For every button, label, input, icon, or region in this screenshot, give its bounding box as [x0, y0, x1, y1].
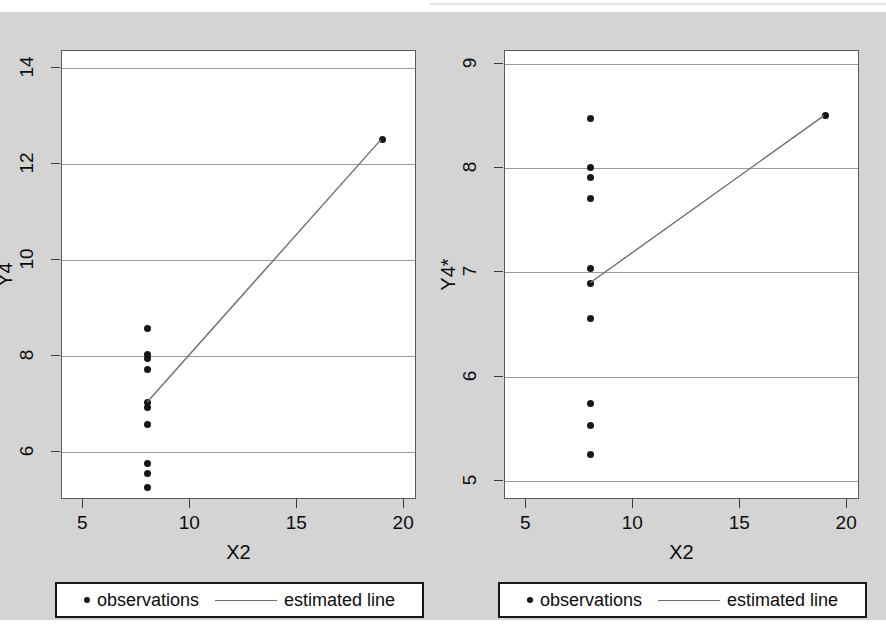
gridline-y-6: [505, 377, 858, 378]
x-tick-mark: [632, 499, 633, 508]
x-axis-title-left: X2: [226, 541, 250, 564]
x-tick-label-15: 15: [286, 512, 307, 534]
x-tick-mark: [189, 499, 190, 508]
data-point[interactable]: [144, 470, 151, 477]
horizontal-line-icon: [658, 600, 720, 601]
y-tick-label-12: 12: [16, 143, 38, 183]
y-tick-mark: [51, 259, 60, 260]
x-tick-label-10: 10: [179, 512, 200, 534]
plot-area-right[interactable]: [504, 50, 859, 499]
x-tick-label-5: 5: [77, 512, 88, 534]
y-tick-label-8: 8: [16, 335, 38, 375]
plot-area-left[interactable]: [61, 50, 416, 499]
data-point[interactable]: [587, 265, 594, 272]
y-tick-mark: [51, 451, 60, 452]
data-point[interactable]: [822, 112, 829, 119]
data-point[interactable]: [144, 325, 151, 332]
gridline-y-14: [62, 68, 415, 69]
y-tick-label-10: 10: [16, 239, 38, 279]
x-tick-mark: [525, 499, 526, 508]
data-point[interactable]: [587, 115, 594, 122]
estimated-line: [62, 51, 415, 498]
data-point[interactable]: [379, 136, 386, 143]
data-point[interactable]: [144, 421, 151, 428]
y-tick-label-6: 6: [459, 356, 481, 396]
page-top-margin: [0, 0, 886, 12]
panel-left: 681012145101520 Y4 X2 observations estim…: [0, 12, 443, 620]
panel-right: 567895101520 Y4* X2 observations estimat…: [443, 12, 886, 620]
y-tick-mark: [494, 376, 503, 377]
data-point[interactable]: [144, 404, 151, 411]
gridline-y-9: [505, 64, 858, 65]
x-tick-label-20: 20: [836, 512, 857, 534]
data-point[interactable]: [587, 451, 594, 458]
data-point[interactable]: [587, 280, 594, 287]
x-tick-mark: [296, 499, 297, 508]
legend-label-observations: observations: [540, 590, 642, 611]
x-tick-mark: [403, 499, 404, 508]
gridline-y-12: [62, 164, 415, 165]
horizontal-line-icon: [215, 600, 277, 601]
legend-entry-observations[interactable]: observations: [84, 590, 199, 611]
y-tick-mark: [51, 67, 60, 68]
y-tick-mark: [494, 167, 503, 168]
legend-label-estimated-line: estimated line: [727, 590, 838, 611]
data-point[interactable]: [587, 195, 594, 202]
data-point[interactable]: [144, 366, 151, 373]
data-point[interactable]: [587, 400, 594, 407]
legend-label-estimated-line: estimated line: [284, 590, 395, 611]
y-tick-mark: [494, 271, 503, 272]
y-tick-label-6: 6: [16, 431, 38, 471]
x-tick-mark: [82, 499, 83, 508]
legend-entry-observations[interactable]: observations: [527, 590, 642, 611]
y-axis-title-right: Y4*: [437, 244, 460, 304]
gridline-y-5: [505, 481, 858, 482]
data-point[interactable]: [587, 164, 594, 171]
data-point[interactable]: [587, 422, 594, 429]
y-tick-mark: [494, 480, 503, 481]
x-tick-mark: [846, 499, 847, 508]
x-axis-title-right: X2: [669, 541, 693, 564]
legend-entry-estimated-line[interactable]: estimated line: [215, 590, 395, 611]
y-tick-mark: [51, 355, 60, 356]
x-tick-label-10: 10: [622, 512, 643, 534]
y-tick-mark: [51, 163, 60, 164]
gridline-y-10: [62, 260, 415, 261]
y-tick-label-5: 5: [459, 460, 481, 500]
legend-right[interactable]: observations estimated line: [498, 582, 867, 618]
y-tick-label-14: 14: [16, 47, 38, 87]
estimated-line: [505, 51, 858, 498]
legend-label-observations: observations: [97, 590, 199, 611]
data-point[interactable]: [144, 484, 151, 491]
data-point[interactable]: [587, 174, 594, 181]
data-point[interactable]: [587, 315, 594, 322]
x-tick-mark: [739, 499, 740, 508]
page-bottom-margin: [0, 620, 886, 644]
legend-left[interactable]: observations estimated line: [55, 582, 424, 618]
gridline-y-7: [505, 272, 858, 273]
y-tick-label-7: 7: [459, 251, 481, 291]
gridline-y-6: [62, 452, 415, 453]
y-tick-label-8: 8: [459, 147, 481, 187]
x-tick-label-20: 20: [393, 512, 414, 534]
filled-circle-icon: [84, 597, 90, 603]
scan-artifact-line: [430, 3, 886, 5]
gridline-y-8: [62, 356, 415, 357]
x-tick-label-15: 15: [729, 512, 750, 534]
legend-entry-estimated-line[interactable]: estimated line: [658, 590, 838, 611]
filled-circle-icon: [527, 597, 533, 603]
x-tick-label-5: 5: [520, 512, 531, 534]
data-point[interactable]: [144, 460, 151, 467]
y-tick-label-9: 9: [459, 43, 481, 83]
y-tick-mark: [494, 63, 503, 64]
y-axis-title-left: Y4: [0, 244, 17, 304]
figure-page: 681012145101520 Y4 X2 observations estim…: [0, 0, 886, 644]
gridline-y-8: [505, 168, 858, 169]
data-point[interactable]: [144, 355, 151, 362]
